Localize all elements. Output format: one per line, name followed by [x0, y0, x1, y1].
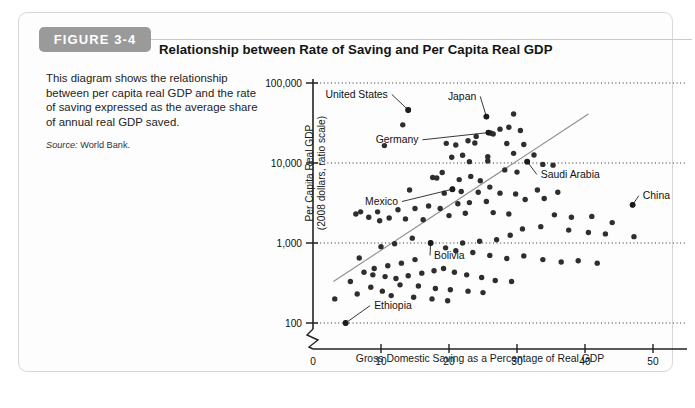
data-point [463, 211, 468, 216]
annotation-label: China [643, 190, 670, 201]
data-point [380, 288, 385, 293]
y-axis-title: Per Capita Real GDP (2008 dollars, ratio… [304, 98, 328, 248]
data-point [479, 275, 484, 280]
data-point [464, 272, 469, 277]
data-point [538, 224, 543, 229]
annotation-leader-line [480, 96, 486, 116]
data-point [477, 239, 482, 244]
figure-header-rule [150, 39, 692, 40]
data-point [357, 255, 362, 260]
annotated-data-point [484, 114, 490, 120]
scatter-plot: Per Capita Real GDP (2008 dollars, ratio… [255, 65, 695, 377]
data-point [511, 151, 516, 156]
y-axis-tick-label: 100,000 [265, 78, 302, 89]
data-point [403, 216, 408, 221]
data-point [586, 230, 591, 235]
data-point [460, 153, 465, 158]
data-point [502, 167, 507, 172]
data-point [487, 184, 492, 189]
data-point [445, 298, 450, 303]
source-value: World Bank. [80, 140, 130, 150]
data-point [468, 174, 473, 179]
data-point [522, 197, 527, 202]
annotated-data-point [486, 130, 492, 136]
annotation-label: Mexico [365, 196, 398, 207]
data-point [550, 162, 555, 167]
axes-group [307, 79, 687, 349]
data-point [508, 233, 513, 238]
data-point [555, 190, 560, 195]
data-point [440, 170, 445, 175]
figure-caption-text: This diagram shows the relationship betw… [46, 71, 262, 129]
data-point [377, 218, 382, 223]
data-point [416, 283, 421, 288]
data-point [434, 175, 439, 180]
y-axis-title-line1: Per Capita Real GDP [304, 98, 316, 248]
data-point [411, 295, 416, 300]
data-point [460, 240, 465, 245]
chart-title: Relationship between Rate of Saving and … [159, 42, 679, 57]
data-point [392, 241, 397, 246]
data-point [431, 268, 436, 273]
data-point [559, 259, 564, 264]
data-point [504, 256, 509, 261]
data-point [493, 278, 498, 283]
axis-break-mark [307, 329, 318, 349]
data-point [375, 209, 380, 214]
data-point [465, 138, 470, 143]
data-point [521, 142, 526, 147]
data-point [412, 257, 417, 262]
data-point [459, 189, 464, 194]
data-point [386, 215, 391, 220]
data-point [448, 287, 453, 292]
data-point [358, 209, 363, 214]
data-point [470, 250, 475, 255]
data-point [366, 215, 371, 220]
data-point [476, 190, 481, 195]
source-label: Source: [46, 140, 78, 150]
data-point [453, 142, 458, 147]
data-point [429, 296, 434, 301]
data-point [378, 244, 383, 249]
data-point [497, 126, 502, 131]
data-point [389, 293, 394, 298]
data-point [566, 227, 571, 232]
annotated-data-point [405, 107, 411, 113]
data-point [452, 270, 457, 275]
data-point [465, 288, 470, 293]
data-point [540, 162, 545, 167]
data-point [395, 207, 400, 212]
data-point [491, 210, 496, 215]
data-point [419, 270, 424, 275]
annotated-data-point [343, 320, 349, 326]
data-point [497, 190, 502, 195]
data-point [433, 286, 438, 291]
data-point [393, 276, 398, 281]
data-point [521, 253, 526, 258]
data-point [441, 266, 446, 271]
data-point [520, 226, 525, 231]
figure-card: FIGURE 3-4 Relationship between Rate of … [18, 12, 673, 372]
figure-caption-block: This diagram shows the relationship betw… [46, 71, 262, 150]
data-point [399, 260, 404, 265]
data-point [480, 290, 485, 295]
data-point [589, 214, 594, 219]
data-point [509, 279, 514, 284]
data-point [446, 213, 451, 218]
data-point [382, 274, 387, 279]
data-point [514, 169, 519, 174]
annotated-data-point [524, 159, 530, 165]
data-point [467, 159, 472, 164]
data-point [412, 206, 417, 211]
data-point [437, 206, 442, 211]
annotated-data-point [428, 240, 434, 246]
data-point [457, 177, 462, 182]
data-point [478, 178, 483, 183]
data-point [449, 155, 454, 160]
data-point [332, 296, 337, 301]
data-point [407, 187, 412, 192]
y-axis-tick-label: 100 [285, 318, 302, 329]
data-point [372, 266, 377, 271]
data-point [504, 141, 509, 146]
annotations-group: United StatesJapanGermanySaudi ArabiaChi… [325, 89, 670, 326]
